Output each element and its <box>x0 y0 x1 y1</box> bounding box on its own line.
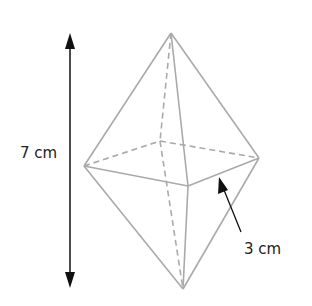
hidden-edges <box>84 33 259 289</box>
height-label: 7 cm <box>20 144 57 162</box>
diagram: 7 cm 3 cm <box>0 0 312 306</box>
edge-length-label: 3 cm <box>244 240 281 258</box>
height-arrow <box>65 33 75 288</box>
visible-edges <box>84 33 259 289</box>
